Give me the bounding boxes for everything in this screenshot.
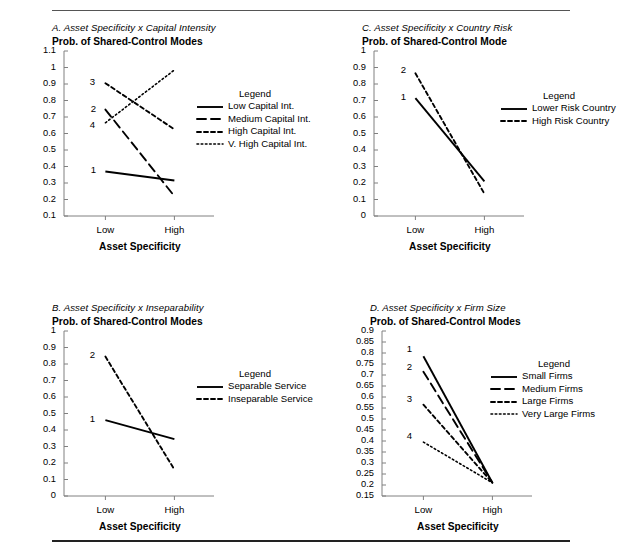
y-tick-label: 0 [26, 491, 56, 500]
y-tick-label: 0.8 [26, 96, 56, 105]
series-number-label: 3 [407, 394, 412, 404]
legend-line-swatch-icon [196, 114, 224, 123]
legend-item[interactable]: V. High Capital Int. [196, 138, 314, 151]
legend-d: LegendSmall FirmsMedium FirmsLarge Firms… [490, 358, 618, 420]
y-tick-label: 0.7 [26, 376, 56, 385]
legend-item[interactable]: Inseparable Service [196, 393, 314, 406]
y-tick-label: 0.8 [26, 359, 56, 368]
y-tick-label: 0.6 [26, 129, 56, 138]
y-tick-label: 0 [336, 211, 366, 220]
plot-canvas [374, 51, 526, 226]
legend-line-swatch-icon [196, 394, 224, 403]
x-axis-label: Asset Specificity [99, 521, 181, 532]
legend-item[interactable]: High Capital Int. [196, 125, 314, 138]
legend-item[interactable]: Separable Service [196, 380, 314, 393]
plot-area-c: 10.90.80.70.60.50.40.30.20.1012LowHighAs… [336, 51, 528, 262]
legend-item[interactable]: Medium Firms [490, 383, 618, 396]
series-line [423, 372, 492, 483]
legend-label: High Risk Country [532, 115, 609, 128]
legend-label: Large Firms [522, 395, 573, 408]
legend-label: V. High Capital Int. [228, 138, 307, 151]
legend-item[interactable]: Low Capital Int. [196, 100, 314, 113]
y-tick-label: 0.9 [336, 63, 366, 72]
y-tick-label: 1 [26, 63, 56, 72]
legend-title: Legend [196, 368, 314, 380]
legend-item[interactable]: Medium Capital Int. [196, 113, 314, 126]
x-tick-label: Low [415, 505, 433, 515]
series-line [105, 70, 174, 123]
y-tick-label: 0.85 [336, 337, 374, 346]
y-tick-label: 0.5 [336, 129, 366, 138]
series-number-label: 2 [401, 65, 406, 75]
legend-item[interactable]: Very Large Firms [490, 408, 618, 421]
y-tick-label: 0.45 [336, 425, 374, 434]
legend-line-swatch-icon [500, 116, 528, 125]
y-tick-label: 0.9 [26, 79, 56, 88]
legend-item[interactable]: High Risk Country [500, 115, 618, 128]
x-tick-label: High [475, 225, 495, 235]
series-number-label: 2 [91, 104, 96, 114]
y-tick-label: 0.5 [26, 145, 56, 154]
series-line [423, 405, 492, 483]
y-tick-label: 0.6 [26, 392, 56, 401]
chart-title-a: A. Asset Specificity x Capital Intensity [52, 22, 218, 34]
x-axis-label: Asset Specificity [409, 241, 491, 252]
y-tick-label: 0.8 [336, 348, 374, 357]
legend-item[interactable]: Small Firms [490, 370, 618, 383]
y-tick-label: 0.4 [26, 425, 56, 434]
chart-subtitle-b: Prob. of Shared-Control Modes [52, 315, 218, 328]
y-tick-label: 0.9 [336, 326, 374, 335]
legend-label: Medium Capital Int. [228, 113, 311, 126]
y-tick-label: 0.5 [26, 409, 56, 418]
legend-item[interactable]: Lower Risk Country [500, 102, 618, 115]
y-tick-label: 0.4 [26, 162, 56, 171]
y-tick-label: 0.2 [26, 195, 56, 204]
legend-label: Very Large Firms [522, 408, 595, 421]
series-line [415, 73, 484, 193]
chart-subtitle-a: Prob. of Shared-Control Modes [52, 35, 218, 48]
y-tick-label: 0.1 [26, 475, 56, 484]
series-number-label: 1 [407, 344, 412, 354]
x-tick-label: High [483, 505, 503, 515]
y-tick-label: 0.3 [26, 442, 56, 451]
legend-c: LegendLower Risk CountryHigh Risk Countr… [500, 90, 618, 127]
y-tick-label: 0.4 [336, 145, 366, 154]
plot-canvas [64, 51, 216, 226]
series-number-label: 3 [90, 77, 95, 87]
legend-line-swatch-icon [196, 139, 224, 148]
series-number-label: 4 [90, 120, 95, 130]
legend-line-swatch-icon [490, 397, 518, 406]
chart-subtitle-c: Prob. of Shared-Control Mode [362, 35, 528, 48]
legend-line-swatch-icon [490, 409, 518, 418]
chart-title-d: D. Asset Specificity x Firm Size [370, 302, 536, 314]
y-tick-label: 0.55 [336, 403, 374, 412]
x-tick-label: Low [407, 225, 425, 235]
x-axis-label: Asset Specificity [417, 521, 499, 532]
legend-item[interactable]: Large Firms [490, 395, 618, 408]
chart-panel-b: B. Asset Specificity x InseparabilityPro… [26, 302, 218, 542]
legend-title: Legend [196, 88, 314, 100]
y-tick-label: 0.5 [336, 414, 374, 423]
y-tick-label: 0.1 [336, 195, 366, 204]
series-number-label: 4 [407, 431, 412, 441]
legend-title: Legend [500, 90, 618, 102]
y-tick-label: 1.1 [26, 46, 56, 55]
legend-b: LegendSeparable ServiceInseparable Servi… [196, 368, 314, 405]
plot-canvas [64, 331, 216, 506]
x-tick-label: Low [97, 225, 115, 235]
series-line [105, 420, 174, 439]
series-number-label: 2 [90, 350, 95, 360]
legend-line-swatch-icon [500, 104, 528, 113]
legend-line-swatch-icon [196, 102, 224, 111]
series-line [423, 356, 492, 483]
series-line [415, 98, 484, 181]
chart-title-b: B. Asset Specificity x Inseparability [52, 302, 218, 314]
y-tick-label: 0.75 [336, 359, 374, 368]
y-tick-label: 0.3 [26, 178, 56, 187]
y-tick-label: 0.3 [336, 458, 374, 467]
series-number-label: 2 [407, 362, 412, 372]
y-tick-label: 0.65 [336, 381, 374, 390]
x-tick-label: High [165, 225, 185, 235]
y-tick-label: 0.2 [26, 458, 56, 467]
legend-label: High Capital Int. [228, 125, 296, 138]
